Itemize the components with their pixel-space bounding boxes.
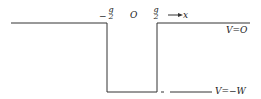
right-edge-label: g 2 [152,6,160,20]
minus-sign: − [99,12,107,21]
top-level-label: V=O [226,26,247,35]
left-edge-denominator: 2 [107,13,115,20]
origin-label: O [130,11,137,20]
potential-well-diagram: − g 2 O g 2 x V=O V=−W [0,0,261,99]
bottom-level-label: V=−W [215,87,246,96]
right-edge-denominator: 2 [152,13,160,20]
x-axis-label: x [183,11,188,20]
left-edge-label: g 2 [107,6,115,20]
